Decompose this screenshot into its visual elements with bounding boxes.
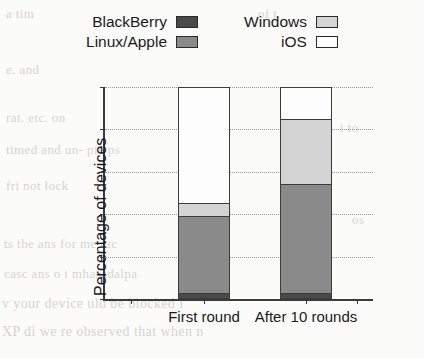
legend-swatch-windows	[316, 16, 338, 28]
bar-segment-ios	[281, 88, 331, 120]
legend-item-linux-apple: Linux/Apple	[86, 32, 198, 51]
bar-first-round	[178, 87, 230, 299]
scan-bleed-text: fri not lock	[6, 178, 69, 194]
y-tick-100	[100, 87, 105, 88]
x-tick-after-10-rounds	[306, 299, 307, 304]
bar-segment-blackberry	[179, 294, 229, 298]
plot-area: Percentage of devices 100 80 60 40 20 0	[103, 87, 373, 301]
x-tick-right-edge	[357, 299, 358, 304]
scan-bleed-text: e. and	[6, 62, 39, 78]
bar-segment-linux-apple	[281, 185, 331, 294]
y-tick-80	[100, 129, 105, 130]
legend-label-ios: iOS	[281, 32, 307, 51]
legend-column-right: Windows iOS	[244, 12, 338, 51]
gridline-80	[105, 129, 373, 130]
bar-segment-ios	[179, 88, 229, 204]
legend-column-left: BlackBerry Linux/Apple	[86, 12, 198, 51]
gridline-60	[105, 172, 373, 173]
y-tick-60	[100, 172, 105, 173]
legend-label-blackberry: BlackBerry	[92, 12, 167, 31]
legend-item-ios: iOS	[244, 32, 338, 51]
gridline-20	[105, 257, 373, 258]
bar-after-10-rounds	[280, 87, 332, 299]
y-tick-40	[100, 214, 105, 215]
bar-segment-windows	[281, 120, 331, 185]
x-tick-label-after-10-rounds: After 10 rounds	[255, 308, 358, 325]
bar-segment-blackberry	[281, 294, 331, 298]
legend-label-windows: Windows	[244, 12, 307, 31]
legend-label-linux-apple: Linux/Apple	[86, 32, 167, 51]
bar-segment-linux-apple	[179, 217, 229, 294]
chart-figure: a tim of t e. and rat. etc. on timed and…	[0, 0, 424, 358]
legend-swatch-linux-apple	[176, 36, 198, 48]
gridline-100	[105, 87, 373, 88]
chart-legend: BlackBerry Linux/Apple Windows iOS	[0, 12, 424, 51]
y-tick-20	[100, 257, 105, 258]
x-tick-left-edge	[131, 299, 132, 304]
x-tick-label-first-round: First round	[168, 308, 240, 325]
bar-segment-windows	[179, 204, 229, 218]
x-axis: First round After 10 rounds	[105, 299, 373, 339]
gridline-40	[105, 214, 373, 215]
legend-swatch-ios	[316, 36, 338, 48]
legend-item-blackberry: BlackBerry	[86, 12, 198, 31]
x-tick-first-round	[204, 299, 205, 304]
y-axis-title: Percentage of devices	[92, 138, 110, 296]
legend-item-windows: Windows	[244, 12, 338, 31]
legend-swatch-blackberry	[176, 16, 198, 28]
scan-bleed-text: rat. etc. on	[6, 110, 66, 126]
